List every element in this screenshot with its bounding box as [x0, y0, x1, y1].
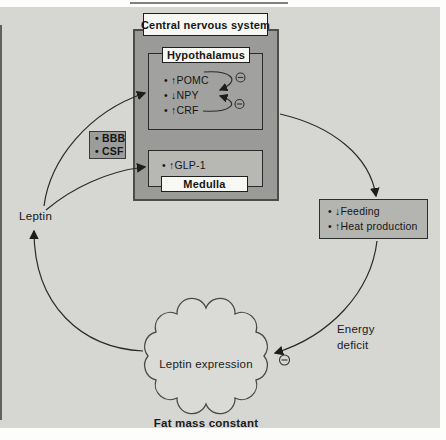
arrow-effects-to-cloud: [275, 241, 377, 353]
barrier-item-csf: • CSF: [95, 145, 125, 158]
medulla-label: Medulla: [161, 176, 248, 192]
hypothalamus-label: Hypothalamus: [162, 47, 250, 63]
inhibition-icon: [280, 355, 290, 365]
cloud-shape: [145, 298, 268, 413]
barrier-item-bbb: • BBB: [95, 132, 125, 145]
page-margin-bottom: [0, 428, 446, 440]
arrow-leptin-to-medulla: [46, 167, 145, 210]
hypothalamus-item-pomc: • ↑POMC: [164, 74, 209, 86]
effects-box: • ↓Feeding • ↑Heat production: [319, 199, 428, 239]
barrier-box: • BBB • CSF: [89, 131, 126, 159]
scan-artifact-left: [0, 25, 2, 420]
effects-item-feeding: • ↓Feeding: [328, 204, 427, 219]
medulla-item-glp1: • ↑GLP-1: [162, 159, 206, 171]
cns-label: Central nervous system: [143, 13, 268, 36]
energy-deficit-label-line2: deficit: [337, 339, 369, 351]
arrow-cns-to-effects: [280, 114, 376, 196]
diagram-leptin-feedback: Central nervous system Hypothalamus Medu…: [0, 0, 446, 440]
effects-item-heat-production: • ↑Heat production: [328, 219, 427, 234]
leptin-label: Leptin: [19, 210, 52, 222]
scan-artifact-top: [130, 2, 288, 4]
hypothalamus-item-npy: • ↓NPY: [164, 89, 199, 101]
arrow-cloud-to-leptin: [34, 231, 143, 351]
hypothalamus-item-crf: • ↑CRF: [164, 104, 199, 116]
page-margin-right: [440, 0, 446, 440]
cloud-label: Leptin expression: [159, 358, 253, 370]
energy-deficit-label-line1: Energy: [337, 323, 375, 335]
